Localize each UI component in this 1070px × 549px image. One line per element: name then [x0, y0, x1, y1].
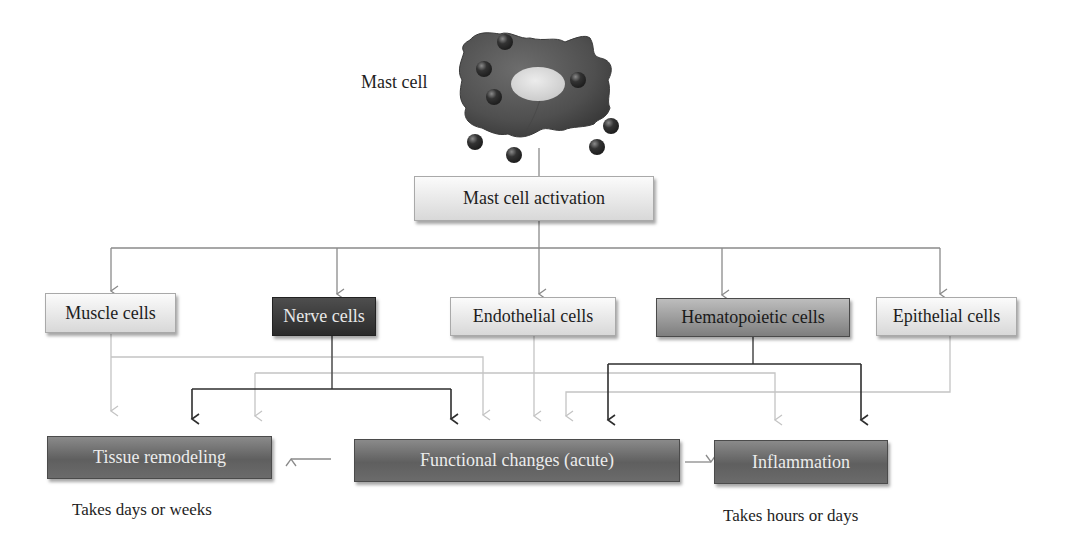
granule-icon	[589, 139, 605, 155]
nucleus-icon	[511, 67, 565, 101]
mast-cell-activation-box: Mast cell activation	[414, 176, 654, 221]
hematopoietic-cells-box: Hematopoietic cells	[656, 298, 850, 337]
muscle-cells-box: Muscle cells	[45, 293, 176, 333]
epithelial-cells-box: Epithelial cells	[876, 297, 1017, 336]
mast-cell-icon	[459, 33, 619, 163]
inflammation-box: Inflammation	[714, 440, 888, 484]
endothelial-cells-box: Endothelial cells	[450, 297, 616, 336]
tissue-timescale-label: Takes days or weeks	[72, 500, 212, 520]
tissue-remodeling-box: Tissue remodeling	[47, 436, 272, 479]
mast-cell-diagram: Mast cell Mast cell activation Muscle ce…	[0, 0, 1070, 549]
functional-changes-box: Functional changes (acute)	[354, 439, 680, 482]
granule-icon	[467, 134, 483, 150]
granule-icon	[603, 118, 619, 134]
granule-icon	[506, 147, 522, 163]
nerve-cells-box: Nerve cells	[272, 297, 376, 336]
mast-cell-label: Mast cell	[361, 72, 427, 93]
inflammation-timescale-label: Takes hours or days	[723, 506, 858, 526]
